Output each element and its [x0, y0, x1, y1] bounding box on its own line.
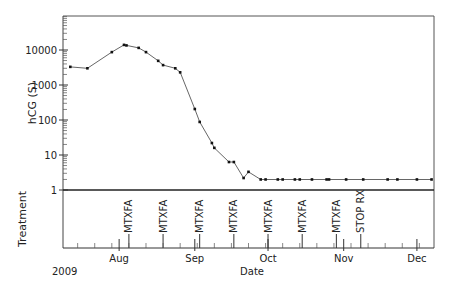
data-point [194, 108, 197, 111]
data-point [325, 178, 328, 181]
treatment-axis-label: Treatment [16, 190, 29, 248]
data-point [396, 178, 399, 181]
data-point [233, 161, 236, 164]
data-point [416, 178, 419, 181]
data-point [242, 177, 245, 180]
data-point [198, 121, 201, 124]
y-tick-label: 100 [38, 115, 57, 126]
hcg-series-line [70, 45, 431, 180]
data-point [264, 178, 267, 181]
data-point [145, 51, 148, 54]
data-point [69, 66, 72, 69]
y-axis-label: hCG (S) [26, 82, 39, 124]
treatment-label: STOP RX [355, 190, 366, 233]
data-point [294, 178, 297, 181]
data-point [157, 60, 160, 63]
data-point [276, 178, 279, 181]
data-point [86, 67, 89, 70]
data-point [281, 178, 284, 181]
data-point [123, 44, 126, 47]
hcg-treatment-chart: 110100100010000 MTXFAMTXFAMTXFAMTXFAMTXF… [0, 0, 451, 291]
data-point [345, 178, 348, 181]
treatment-label: MTXFA [297, 200, 308, 233]
treatment-label: MTXFA [158, 200, 169, 233]
data-point [162, 64, 165, 67]
data-point [211, 142, 214, 145]
x-tick-label: Sep [185, 253, 204, 264]
data-point [125, 44, 128, 47]
year-label: 2009 [52, 266, 77, 277]
chart-canvas: 110100100010000 MTXFAMTXFAMTXFAMTXFAMTXF… [0, 0, 451, 291]
data-point [259, 178, 262, 181]
treatment-label: MTXFA [263, 200, 274, 233]
y-tick-label: 10000 [25, 45, 57, 56]
x-tick-label: Dec [407, 253, 426, 264]
treatment-label: MTXFA [331, 200, 342, 233]
data-point [386, 178, 389, 181]
data-point [430, 178, 433, 181]
x-axis: AugSepOctNovDec [63, 239, 434, 264]
data-point [298, 178, 301, 181]
x-tick-label: Oct [259, 253, 276, 264]
x-tick-label: Aug [109, 253, 129, 264]
y-tick-label: 10 [44, 150, 57, 161]
data-point [362, 178, 365, 181]
data-point [311, 178, 314, 181]
data-point [247, 171, 250, 174]
data-point [179, 71, 182, 74]
data-point [111, 51, 114, 54]
treatment-panel: MTXFAMTXFAMTXFAMTXFAMTXFAMTXFAMTXFASTOP … [123, 190, 366, 248]
data-point [228, 161, 231, 164]
x-axis-label: Date [240, 266, 264, 277]
treatment-label: MTXFA [194, 200, 205, 233]
y-tick-label: 1 [51, 185, 57, 196]
x-tick-label: Nov [334, 253, 354, 264]
treatment-label: MTXFA [123, 200, 134, 233]
data-point [213, 147, 216, 150]
data-point [328, 178, 331, 181]
treatment-label: MTXFA [228, 200, 239, 233]
data-point [174, 67, 177, 70]
data-point [137, 47, 140, 50]
